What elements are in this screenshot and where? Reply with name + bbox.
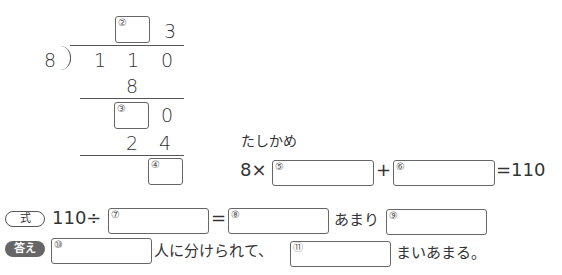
answer-box-6[interactable]: ⑥ xyxy=(393,160,495,186)
step2-line xyxy=(80,155,184,156)
check-plus: + xyxy=(376,160,391,180)
check-label: たしかめ xyxy=(241,131,297,151)
dividend-tens: 1 xyxy=(127,49,139,71)
answer-box-9[interactable]: ⑨ xyxy=(386,209,487,235)
dividend-ones: 0 xyxy=(161,49,173,71)
quotient-ones-digit: 3 xyxy=(164,20,176,42)
equation-equals: = xyxy=(211,208,226,228)
answer-box-7[interactable]: ⑦ xyxy=(108,208,209,234)
divisor: 8 xyxy=(44,49,56,71)
answer-box-4[interactable]: ④ xyxy=(148,158,183,185)
step2-ones: 0 xyxy=(161,104,173,126)
answer-box-11[interactable]: ⑪ xyxy=(290,241,391,267)
answer-box-5[interactable]: ⑤ xyxy=(272,160,374,186)
answer-badge: 答え xyxy=(5,241,45,257)
equation-badge: 式 xyxy=(5,211,45,227)
blank-number-10: ⑩ xyxy=(54,239,63,250)
remainder-label: あまり xyxy=(334,210,379,230)
answer-text-2: まいあまる。 xyxy=(396,243,486,263)
blank-number-11: ⑪ xyxy=(293,242,303,253)
equation-prefix: 110÷ xyxy=(52,208,101,228)
blank-number-3: ③ xyxy=(117,103,126,114)
answer-box-10[interactable]: ⑩ xyxy=(51,238,152,264)
check-result: =110 xyxy=(496,160,545,180)
step2-product-tens: 2 xyxy=(126,132,138,154)
answer-box-2[interactable]: ② xyxy=(115,16,150,43)
blank-number-2: ② xyxy=(118,17,127,28)
answer-box-3[interactable]: ③ xyxy=(114,102,149,129)
dividend-hundreds: 1 xyxy=(94,49,106,71)
answer-text-1: 人に分けられて、 xyxy=(154,241,273,261)
blank-number-9: ⑨ xyxy=(389,210,398,221)
blank-number-5: ⑤ xyxy=(275,161,284,172)
division-bar xyxy=(70,45,184,46)
step1-product: 8 xyxy=(126,75,138,97)
answer-box-8[interactable]: ⑧ xyxy=(228,208,329,234)
step2-product-ones: 4 xyxy=(159,132,171,154)
check-prefix: 8× xyxy=(240,160,267,180)
blank-number-6: ⑥ xyxy=(396,161,405,172)
blank-number-8: ⑧ xyxy=(231,209,240,220)
blank-number-4: ④ xyxy=(151,159,160,170)
step1-line xyxy=(80,98,184,99)
division-bracket xyxy=(60,46,71,70)
blank-number-7: ⑦ xyxy=(111,209,120,220)
